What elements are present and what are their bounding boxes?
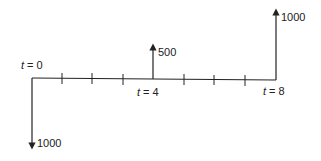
time-axis (32, 78, 276, 80)
time-value: = 0 (24, 59, 43, 71)
cash-flow-amount-period-0: 1000 (37, 138, 61, 149)
cash-flow-diagram: t = 0 t = 4 t = 8 1000 500 1000 (0, 0, 321, 161)
cash-flow-amount-period-8: 1000 (281, 12, 305, 23)
time-label-t8: t = 8 (263, 86, 285, 97)
time-value: = 8 (266, 85, 285, 97)
time-label-t4: t = 4 (137, 87, 159, 98)
time-label-t0: t = 0 (21, 60, 43, 71)
cash-flow-amount-period-4: 500 (158, 47, 176, 58)
time-value: = 4 (140, 86, 159, 98)
